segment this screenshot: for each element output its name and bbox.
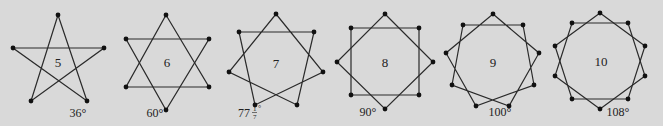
- star-8-angle-label: 90°: [360, 105, 377, 119]
- vertex-dot: [537, 51, 542, 56]
- vertex-dot: [102, 46, 107, 51]
- vertex-dot: [383, 107, 388, 112]
- star-7-angle-denominator: 7: [253, 113, 257, 121]
- vertex-dot: [570, 21, 575, 26]
- vertex-dot: [444, 51, 449, 56]
- star-10-angle-label: 108°: [607, 105, 630, 119]
- vertex-dot: [643, 44, 648, 49]
- star-5-angle-label: 36°: [70, 106, 87, 120]
- vertex-dot: [274, 12, 279, 17]
- vertex-dot: [553, 44, 558, 49]
- vertex-dot: [461, 23, 466, 28]
- vertex-dot: [532, 83, 537, 88]
- vertex-dot: [312, 30, 317, 35]
- vertex-dot: [417, 26, 422, 31]
- star-5-label: 5: [55, 55, 62, 70]
- vertex-dot: [491, 12, 496, 17]
- star-9-label: 9: [490, 55, 497, 70]
- star-6-angle-label: 60°: [147, 106, 164, 120]
- vertex-dot: [626, 21, 631, 26]
- star-7-angle-integer: 77: [238, 106, 250, 120]
- vertex-dot: [295, 103, 300, 108]
- star-9-angle-label: 100°: [489, 105, 512, 119]
- vertex-dot: [417, 93, 422, 98]
- vertex-dot: [598, 107, 603, 112]
- star-7-angle-numerator: 1: [253, 105, 257, 113]
- vertex-dot: [521, 23, 526, 28]
- star-7-label: 7: [273, 56, 280, 71]
- vertex-dot: [56, 13, 61, 18]
- vertex-dot: [349, 93, 354, 98]
- vertex-dot: [431, 60, 436, 65]
- vertex-dot: [349, 26, 354, 31]
- vertex-dot: [450, 83, 455, 88]
- vertex-dot: [643, 74, 648, 79]
- star-10-label: 10: [595, 54, 608, 69]
- vertex-dot: [474, 104, 479, 109]
- vertex-dot: [335, 60, 340, 65]
- vertex-dot: [124, 85, 129, 90]
- vertex-dot: [383, 12, 388, 17]
- vertex-dot: [11, 46, 16, 51]
- vertex-dot: [207, 37, 212, 42]
- vertex-dot: [321, 70, 326, 75]
- vertex-dot: [626, 97, 631, 102]
- vertex-dot: [553, 74, 558, 79]
- vertex-dot: [29, 99, 34, 104]
- vertex-dot: [124, 37, 129, 42]
- vertex-dot: [207, 85, 212, 90]
- star-7-angle-degree-sign: °: [258, 104, 261, 113]
- vertex-dot: [164, 108, 169, 113]
- vertex-dot: [164, 13, 169, 18]
- vertex-dot: [85, 99, 90, 104]
- star-polygons-diagram: 5 36° 6 60° 7 77 1 7 ° 8 90° 9 100°: [0, 0, 663, 126]
- vertex-dot: [227, 70, 232, 75]
- vertex-dot: [598, 11, 603, 16]
- vertex-dot: [237, 30, 242, 35]
- star-8-label: 8: [382, 55, 389, 70]
- background: [0, 0, 663, 126]
- vertex-dot: [570, 97, 575, 102]
- star-6-label: 6: [164, 55, 171, 70]
